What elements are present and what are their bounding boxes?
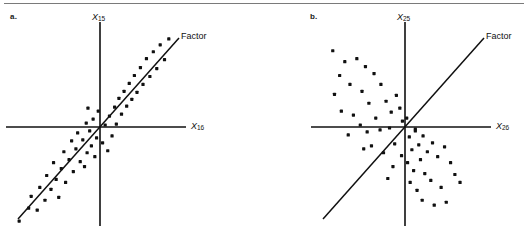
scatter-point — [362, 147, 365, 150]
scatter-point — [64, 181, 67, 184]
scatter-point — [18, 219, 21, 222]
figure-container: a. X15 X16 Factor b. X25 X26 Factor — [0, 0, 528, 242]
scatter-point — [155, 67, 158, 70]
scatter-point — [92, 117, 95, 120]
scatter-point — [79, 160, 82, 163]
scatter-point — [379, 83, 382, 86]
panel-a-plot — [0, 0, 264, 242]
scatter-point — [378, 128, 381, 131]
scatter-point — [370, 144, 373, 147]
scatter-point — [384, 100, 387, 103]
scatter-point — [30, 195, 33, 198]
scatter-point — [55, 178, 58, 181]
scatter-point — [355, 57, 358, 60]
scatter-point — [382, 151, 385, 154]
scatter-point — [423, 172, 426, 175]
scatter-point — [139, 66, 142, 69]
scatter-point — [70, 139, 73, 142]
scatter-point — [393, 142, 396, 145]
x-axis-label-subscript: 26 — [502, 124, 509, 131]
scatter-point — [409, 181, 412, 184]
scatter-point — [104, 123, 107, 126]
scatter-point — [52, 161, 55, 164]
scatter-point — [67, 158, 70, 161]
scatter-point — [93, 155, 96, 158]
scatter-point — [360, 90, 363, 93]
scatter-point — [414, 127, 417, 130]
scatter-point — [429, 179, 432, 182]
scatter-point — [45, 174, 48, 177]
scatter-point — [108, 115, 111, 118]
y-axis-label-subscript: 15 — [98, 15, 105, 22]
scatter-point — [159, 43, 162, 46]
scatter-point — [388, 126, 391, 129]
scatter-point — [406, 161, 409, 164]
scatter-point — [43, 199, 46, 202]
scatter-point — [74, 147, 77, 150]
scatter-point — [391, 165, 394, 168]
y-axis-label: X15 — [92, 12, 105, 22]
x-axis-label: X26 — [496, 121, 509, 131]
scatter-point — [366, 130, 369, 133]
scatter-point — [85, 121, 88, 124]
scatter-point — [401, 119, 404, 122]
factor-line — [18, 38, 179, 219]
scatter-point — [106, 149, 109, 152]
scatter-point — [110, 134, 113, 137]
scatter-point — [81, 138, 84, 141]
scatter-point — [419, 158, 422, 161]
scatter-point — [352, 114, 355, 117]
scatter-point — [412, 169, 415, 172]
factor-line — [323, 38, 484, 219]
scatter-point — [400, 154, 403, 157]
scatter-point — [90, 144, 93, 147]
scatter-point — [405, 116, 408, 119]
scatter-point — [83, 165, 86, 168]
scatter-point — [445, 201, 448, 204]
scatter-point — [141, 83, 144, 86]
scatter-point — [36, 209, 39, 212]
scatter-point — [340, 110, 343, 113]
scatter-points-group — [331, 49, 461, 207]
scatter-point — [359, 123, 362, 126]
scatter-point — [443, 145, 446, 148]
scatter-point — [333, 93, 336, 96]
scatter-point — [148, 75, 151, 78]
scatter-point — [348, 83, 351, 86]
panel-b-axes — [311, 22, 491, 226]
scatter-point — [133, 74, 136, 77]
scatter-point — [86, 151, 89, 154]
y-axis-label-subscript: 25 — [403, 15, 410, 22]
scatter-point — [338, 74, 341, 77]
scatter-point — [76, 131, 79, 134]
scatter-point — [331, 49, 334, 52]
panel-b: b. X25 X26 Factor — [264, 0, 528, 242]
scatter-point — [145, 57, 148, 60]
scatter-point — [128, 82, 131, 85]
panel-a: a. X15 X16 Factor — [0, 0, 264, 242]
scatter-point — [417, 143, 420, 146]
scatter-point — [410, 148, 413, 151]
scatter-point — [49, 188, 52, 191]
scatter-point — [364, 65, 367, 68]
scatter-point — [374, 116, 377, 119]
scatter-point — [415, 189, 418, 192]
scatter-point — [398, 107, 401, 110]
scatter-point — [62, 150, 65, 153]
scatter-point — [343, 60, 346, 63]
y-axis-label: X25 — [397, 12, 410, 22]
scatter-point — [395, 94, 398, 97]
scatter-point — [113, 106, 116, 109]
scatter-point — [115, 122, 118, 125]
scatter-point — [367, 102, 370, 105]
scatter-point — [117, 97, 120, 100]
scatter-point — [120, 113, 123, 116]
factor-label: Factor — [486, 31, 512, 41]
scatter-point — [125, 105, 128, 108]
scatter-point — [152, 50, 155, 53]
scatter-point — [72, 170, 75, 173]
scatter-point — [38, 186, 41, 189]
scatter-point — [122, 90, 125, 93]
scatter-point — [130, 98, 133, 101]
scatter-point — [163, 58, 166, 61]
